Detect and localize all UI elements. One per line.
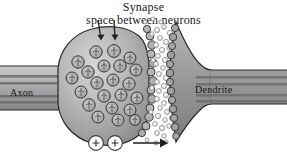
vesicle [98, 60, 110, 72]
vesicle [131, 92, 143, 104]
vesicle [130, 115, 141, 126]
vesicle [124, 52, 136, 64]
dendrite-label: Dendrite [195, 84, 232, 95]
vesicle [106, 102, 118, 114]
vesicle [108, 45, 121, 58]
vesicle [98, 90, 110, 102]
vesicle [75, 86, 87, 98]
vesicle [115, 89, 127, 101]
vesicle [130, 64, 142, 76]
dendrite [166, 22, 287, 142]
axon-label: Axon [10, 87, 33, 98]
positive-charge [108, 136, 123, 151]
vesicle [66, 72, 78, 84]
vesicle [82, 66, 94, 78]
vesicle [114, 60, 126, 72]
synapse-illustration [0, 0, 287, 156]
vesicle [90, 46, 102, 58]
vesicle [83, 99, 95, 111]
vesicle [91, 77, 103, 89]
vesicle [123, 78, 135, 90]
vesicle [112, 114, 124, 126]
presynaptic-terminal [58, 20, 157, 145]
synapse-diagram: Synapse space between neurons [0, 0, 287, 156]
vesicle [92, 111, 104, 123]
positive-charge [89, 136, 104, 151]
vesicle [72, 56, 84, 68]
vesicle [107, 74, 119, 86]
